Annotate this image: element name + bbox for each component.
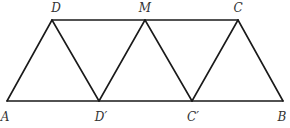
- segment-dd-prime: [52, 20, 99, 101]
- diagram-svg: ADMCD′C′B: [0, 0, 290, 128]
- segments-layer: [7, 20, 283, 101]
- segment-m-c-prime: [145, 20, 192, 101]
- segment-d-prime-m: [99, 20, 145, 101]
- point-label-c: C: [233, 1, 242, 15]
- segment-c-prime-c: [192, 20, 238, 101]
- point-label-d: D: [50, 1, 61, 15]
- segment-ad: [7, 20, 52, 101]
- geometry-diagram: ADMCD′C′B: [0, 0, 290, 128]
- point-label-cp: C′: [187, 110, 199, 124]
- point-label-dp: D′: [94, 110, 108, 124]
- point-label-m: M: [138, 1, 152, 15]
- point-label-b: B: [277, 110, 287, 124]
- point-label-a: A: [0, 110, 10, 124]
- segment-cb: [238, 20, 283, 101]
